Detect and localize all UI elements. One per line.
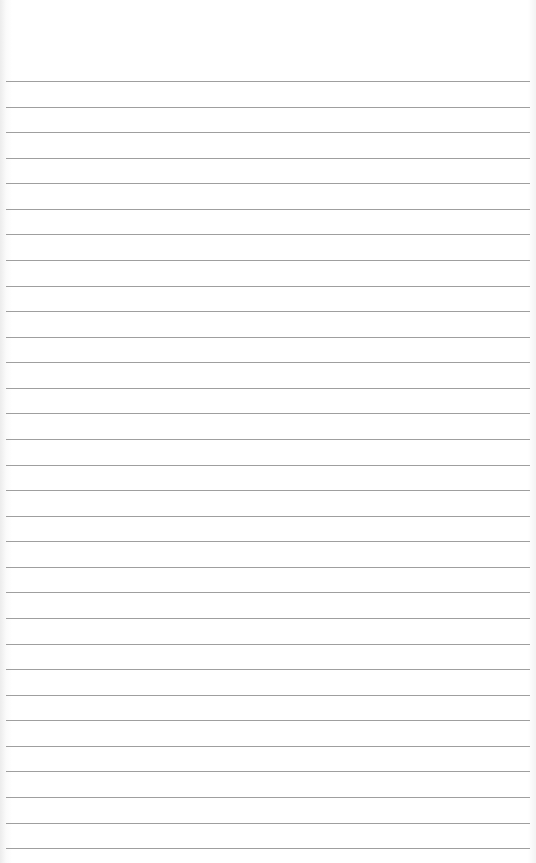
- ruled-line: [6, 567, 530, 568]
- ruled-line: [6, 490, 530, 491]
- ruled-line: [6, 592, 530, 593]
- ruled-line: [6, 541, 530, 542]
- ruled-line: [6, 81, 530, 82]
- ruled-line: [6, 132, 530, 133]
- lined-paper-sheet: [0, 0, 536, 863]
- ruled-line: [6, 337, 530, 338]
- ruled-line: [6, 388, 530, 389]
- ruled-line: [6, 720, 530, 721]
- ruled-line: [6, 413, 530, 414]
- ruled-line: [6, 362, 530, 363]
- ruled-line: [6, 695, 530, 696]
- ruled-line: [6, 823, 530, 824]
- ruled-line: [6, 516, 530, 517]
- ruled-line: [6, 234, 530, 235]
- ruled-line: [6, 848, 530, 849]
- ruled-line: [6, 183, 530, 184]
- ruled-line: [6, 311, 530, 312]
- ruled-line: [6, 618, 530, 619]
- ruled-line: [6, 209, 530, 210]
- ruled-line: [6, 286, 530, 287]
- ruled-line: [6, 158, 530, 159]
- ruled-line: [6, 771, 530, 772]
- ruled-line: [6, 260, 530, 261]
- ruled-line: [6, 439, 530, 440]
- ruled-line: [6, 669, 530, 670]
- ruled-line: [6, 797, 530, 798]
- ruled-line: [6, 644, 530, 645]
- ruled-line: [6, 107, 530, 108]
- ruled-line: [6, 465, 530, 466]
- ruled-line: [6, 746, 530, 747]
